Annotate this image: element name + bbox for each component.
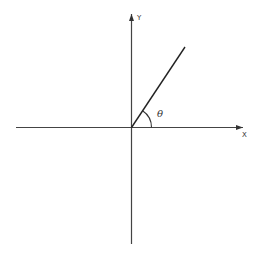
angle-arc: [143, 111, 152, 128]
y-axis-label: Y: [136, 14, 142, 22]
angle-diagram: Y X θ: [0, 0, 258, 258]
x-axis-label: X: [242, 131, 247, 139]
angle-theta-label: θ: [157, 108, 163, 119]
